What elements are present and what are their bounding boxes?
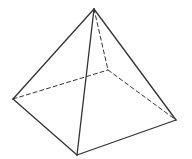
edge-left-front <box>13 99 77 155</box>
edge-apex-front <box>77 9 94 155</box>
hidden-edges <box>13 9 176 120</box>
hidden-edge-left-back <box>13 70 108 99</box>
visible-edges <box>13 9 176 155</box>
edge-front-right <box>77 120 176 155</box>
edge-apex-left <box>13 9 94 99</box>
pyramid-svg <box>0 0 192 159</box>
hidden-edge-back-right <box>108 70 176 120</box>
pyramid-diagram <box>0 0 192 159</box>
